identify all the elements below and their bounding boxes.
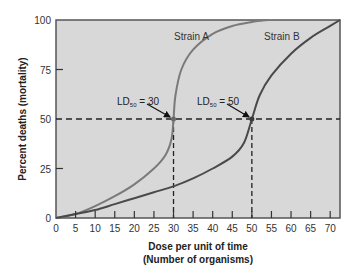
x-tick-label: 10: [90, 223, 102, 234]
x-tick-label: 40: [207, 223, 219, 234]
x-tick-label: 25: [148, 223, 160, 234]
ld50-point-1: [249, 117, 254, 122]
x-tick-label: 20: [129, 223, 141, 234]
y-tick-label: 25: [40, 164, 52, 175]
ld50-annotation-a: LD50 = 30: [117, 96, 159, 108]
x-tick-label: 50: [246, 223, 258, 234]
y-tick-label: 50: [40, 114, 52, 125]
x-tick-label: 70: [325, 223, 337, 234]
ld50-annotation-b: LD50 = 50: [197, 96, 239, 108]
x-axis-title-line1: Dose per unit of time: [148, 241, 248, 252]
y-tick-label: 75: [40, 65, 52, 76]
x-tick-label: 65: [305, 223, 317, 234]
series-label-strain-a: Strain A: [174, 31, 209, 42]
y-tick-label: 0: [45, 213, 51, 224]
x-tick-label: 5: [73, 223, 79, 234]
x-tick-label: 0: [53, 223, 59, 234]
y-axis-title: Percent deaths (mortality): [17, 57, 28, 180]
y-tick-label: 100: [34, 15, 51, 26]
ld50-point-0: [171, 117, 176, 122]
x-tick-label: 35: [188, 223, 200, 234]
series-label-strain-b: Strain B: [264, 31, 300, 42]
x-tick-label: 15: [109, 223, 121, 234]
x-tick-label: 45: [227, 223, 239, 234]
x-tick-label: 55: [266, 223, 278, 234]
mortality-chart: 0510152025303540455055606570 0255075100 …: [0, 0, 358, 273]
x-axis-title-line2: (Number of organisms): [143, 254, 253, 265]
x-tick-label: 60: [285, 223, 297, 234]
x-tick-label: 30: [168, 223, 180, 234]
